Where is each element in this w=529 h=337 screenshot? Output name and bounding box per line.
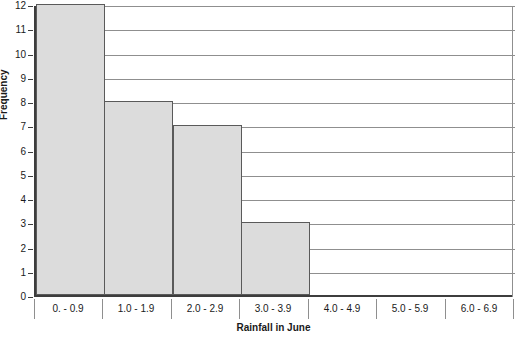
x-axis-bin-label: 2.0 - 2.9 bbox=[171, 303, 239, 315]
x-axis-label-band: 0. - 0.91.0 - 1.92.0 - 2.93.0 - 3.94.0 -… bbox=[34, 299, 513, 319]
x-axis-bin-label: 3.0 - 3.9 bbox=[239, 303, 307, 315]
y-axis-tick-mark bbox=[28, 103, 33, 104]
histogram-chart: Frequency 0. - 0.91.0 - 1.92.0 - 2.93.0 … bbox=[0, 0, 529, 337]
y-axis-tick-mark bbox=[28, 249, 33, 250]
y-axis-tick-mark bbox=[28, 152, 33, 153]
y-axis-tick-label: 7 bbox=[0, 122, 26, 132]
chart-title bbox=[34, 0, 334, 3]
x-axis-bin-label: 5.0 - 5.9 bbox=[376, 303, 444, 315]
y-axis-tick-mark bbox=[28, 176, 33, 177]
x-axis-bin-divider bbox=[513, 299, 514, 319]
y-axis-tick-label: 2 bbox=[0, 244, 26, 254]
y-axis-tick-label: 6 bbox=[0, 147, 26, 157]
y-axis-tick-label: 11 bbox=[0, 25, 26, 35]
y-axis-tick-label: 4 bbox=[0, 195, 26, 205]
x-axis-title: Rainfall in June bbox=[34, 322, 513, 333]
gridline bbox=[36, 6, 515, 7]
plot-area bbox=[34, 6, 513, 297]
y-axis-tick-mark bbox=[28, 127, 33, 128]
y-axis-tick-mark bbox=[28, 79, 33, 80]
y-axis-tick-mark bbox=[28, 55, 33, 56]
bar bbox=[36, 4, 105, 295]
y-axis-tick-mark bbox=[28, 297, 33, 298]
y-axis-tick-label: 9 bbox=[0, 74, 26, 84]
y-axis-tick-mark bbox=[28, 6, 33, 7]
y-axis-tick-mark bbox=[28, 30, 33, 31]
y-axis-tick-label: 8 bbox=[0, 98, 26, 108]
x-axis-bin-label: 0. - 0.9 bbox=[34, 303, 102, 315]
bar bbox=[241, 222, 310, 295]
y-axis-tick-mark bbox=[28, 200, 33, 201]
y-axis-tick-label: 1 bbox=[0, 268, 26, 278]
y-axis-tick-label: 3 bbox=[0, 219, 26, 229]
gridline bbox=[36, 55, 515, 56]
x-axis-bin-label: 1.0 - 1.9 bbox=[102, 303, 170, 315]
y-axis-tick-label: 0 bbox=[0, 292, 26, 302]
y-axis-tick-label: 10 bbox=[0, 50, 26, 60]
x-axis-bin-label: 6.0 - 6.9 bbox=[445, 303, 513, 315]
x-axis-bin-label: 4.0 - 4.9 bbox=[308, 303, 376, 315]
y-axis-tick-mark bbox=[28, 224, 33, 225]
gridline bbox=[36, 79, 515, 80]
y-axis-tick-label: 5 bbox=[0, 171, 26, 181]
y-axis-tick-label: 12 bbox=[0, 1, 26, 11]
bar bbox=[104, 101, 173, 295]
y-axis-tick-mark bbox=[28, 273, 33, 274]
bar bbox=[173, 125, 242, 295]
gridline bbox=[36, 30, 515, 31]
